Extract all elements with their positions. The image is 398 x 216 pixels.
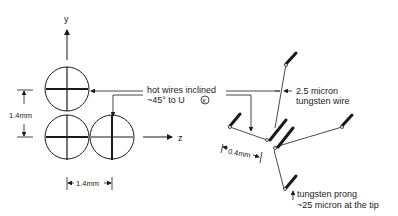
leader-to-right-circle: [113, 95, 143, 116]
wire-label-line1: 2.5 micron: [296, 86, 338, 96]
sensor-circle-bottom-right: [90, 115, 134, 160]
wire-label-line2: tungsten wire: [296, 96, 350, 106]
sensor-circle-bottom-left: [45, 115, 89, 160]
velocity-into-page-symbol: x: [201, 96, 209, 104]
prong-tips: [229, 64, 344, 191]
z-axis-label: z: [178, 133, 183, 143]
hot-wires-label-line2: ~45° to U: [147, 95, 185, 105]
prong-label-line1: tungsten prong: [297, 189, 357, 199]
prong-label-line2: ~25 micron at the tip: [297, 200, 379, 210]
prong-spacing-label: 0.4mm: [227, 147, 251, 160]
sensor-circle-top: [45, 67, 89, 111]
hot-wires-label-line1: hot wires inclined: [147, 85, 216, 95]
svg-text:x: x: [202, 97, 206, 104]
vertical-dimension-label: 1.4mm: [9, 111, 32, 120]
tungsten-prongs: [230, 53, 352, 188]
sensor-wires: [230, 64, 342, 189]
probe-perspective-view: [221, 53, 352, 200]
hot-wire-probe-diagram: y z 1.4mm 1.4mm hot wires inclined ~45° …: [0, 0, 398, 216]
cross-section-view: [17, 30, 172, 190]
horizontal-dimension-label: 1.4mm: [76, 179, 99, 188]
y-axis-label: y: [64, 14, 69, 24]
